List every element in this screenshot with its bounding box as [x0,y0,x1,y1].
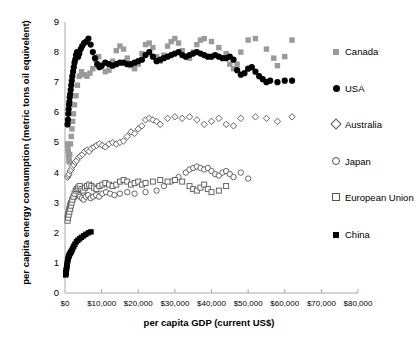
x-axis-label: per capita GDP (current US$) [0,317,418,328]
data-point [264,46,269,51]
data-point [176,40,181,45]
data-point [85,35,91,41]
series-china [63,229,94,277]
data-point [72,102,77,107]
data-point [69,134,74,139]
data-point [186,114,192,120]
data-point [289,114,295,120]
data-point [154,188,159,193]
data-point [253,36,258,41]
data-point [125,55,130,60]
legend-label: China [345,229,370,240]
legend-label: Canada [345,46,378,57]
data-point [106,67,111,72]
data-point [180,179,185,184]
data-point [117,191,122,196]
data-point [234,61,239,66]
legend-item-usa[interactable]: USA [330,83,365,94]
data-point [252,114,258,120]
data-point [216,115,222,121]
data-point [92,55,98,61]
y-tick-label: 6 [43,106,59,117]
legend-label: Japan [345,156,371,167]
y-tick-label: 9 [43,16,59,27]
data-point [71,111,76,116]
data-point [67,152,72,157]
data-point [125,189,130,194]
y-tick-label: 3 [43,197,59,208]
data-point [231,174,236,179]
data-point [90,66,95,71]
data-point [275,63,280,68]
data-point [179,115,185,121]
data-point [150,179,155,184]
legend-item-japan[interactable]: Japan [330,156,371,167]
y-tick-label: 4 [43,167,59,178]
data-point [271,55,276,60]
data-point [289,37,294,42]
data-point [230,123,236,129]
data-point [223,121,229,127]
data-point [165,179,170,184]
data-point [216,45,221,50]
data-point [209,190,214,195]
filled-square-gray-icon [330,46,342,57]
y-tick-label: 8 [43,46,59,57]
data-point [267,78,273,84]
data-point [75,83,80,88]
data-point [112,192,117,197]
data-points [63,35,295,277]
open-square-icon [330,192,342,203]
data-point [209,39,214,44]
series-australia [64,114,295,181]
data-point [282,54,287,59]
data-point [172,114,178,120]
filled-square-black-icon [330,229,342,240]
data-point [245,176,250,181]
legend-label: USA [345,83,365,94]
x-tick-label: $80,000 [328,299,388,308]
data-point [245,37,250,42]
data-point [201,121,207,127]
y-tick-label: 5 [43,136,59,147]
data-point [224,184,229,189]
y-axis-label: per capita energy consumption (metric to… [20,17,31,288]
data-point [194,117,200,123]
data-point [274,118,280,124]
legend-item-china[interactable]: China [330,229,370,240]
y-tick-label: 7 [43,76,59,87]
data-point [65,117,71,123]
data-point [143,181,148,186]
data-point [158,178,163,183]
legend-item-canada[interactable]: Canada [330,46,378,57]
data-point [282,78,288,84]
scatter-chart: 0123456789 $0$10,000$20,000$30,000$40,00… [0,0,418,348]
series-japan [65,164,251,219]
data-point [73,93,78,98]
legend-label: European Union [345,192,414,203]
filled-circle-black-icon [330,83,342,94]
data-point [121,46,126,51]
data-point [230,57,236,63]
data-point [238,49,243,54]
data-point [69,126,74,131]
legend-item-european-union[interactable]: European Union [330,192,414,203]
legend-item-australia[interactable]: Australia [330,119,382,130]
data-point [172,178,177,183]
data-point [68,141,73,146]
data-point [132,191,137,196]
data-point [88,41,94,47]
y-tick-label: 2 [43,227,59,238]
data-point [238,170,243,175]
data-point [201,36,206,41]
data-point [143,189,148,194]
data-point [216,188,221,193]
data-point [208,118,214,124]
y-tick-label: 0 [43,287,59,298]
data-point [150,45,155,50]
data-point [90,49,96,55]
data-point [164,115,170,121]
open-diamond-icon [330,119,342,130]
y-tick-label: 1 [43,257,59,268]
data-point [289,78,295,84]
